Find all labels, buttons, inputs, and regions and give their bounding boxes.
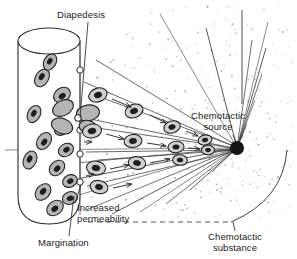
leukocyte-cell [201,145,215,155]
chemotactic-source-dot [230,141,244,155]
vessel-top-ellipse [18,28,80,54]
diagram-canvas [0,0,297,259]
leukocyte-cell [87,85,110,104]
chemotaxis-diagram: Diapedesis Chemotactic source Increased … [0,0,297,259]
leukocyte-cell [168,141,185,153]
leukocyte-cell [123,102,145,121]
label-increased-permeability-line1: Increased [77,202,120,213]
chemotactic-field-arc [231,150,287,222]
label-diapedesis: Diapedesis [57,9,105,20]
leukocyte-cell [127,156,146,171]
label-chemotactic-substance-line1: Chemotactic [186,231,284,242]
label-margination: Margination [38,237,89,248]
leukocyte-cell [123,133,142,148]
chemotactic-substance-leader [233,222,235,231]
label-increased-permeability-line2: permeability [77,213,129,224]
leukocyte-cell [89,179,109,196]
chemotactic-source-leader [233,135,236,142]
label-chemotactic-source-line1: Chemotactic [184,110,252,121]
leukocyte-cell [172,154,188,166]
label-chemotactic-substance-line2: substance [186,242,284,253]
label-chemotactic-source-line2: source [184,121,252,132]
